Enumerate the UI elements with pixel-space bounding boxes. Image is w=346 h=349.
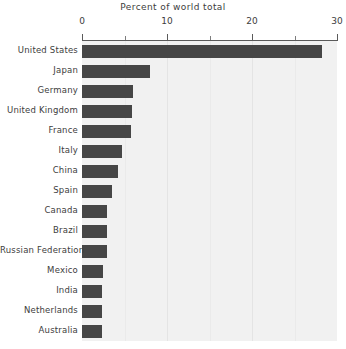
gridline [252, 41, 253, 341]
category-label: Russian Federation [0, 245, 78, 255]
category-label: Italy [0, 145, 78, 155]
bar [82, 325, 102, 338]
category-label: Germany [0, 85, 78, 95]
category-label: Japan [0, 65, 78, 75]
category-label: India [0, 285, 78, 295]
gridline [167, 41, 168, 341]
x-axis-tick [82, 34, 83, 40]
bar [82, 125, 131, 138]
category-label: Canada [0, 205, 78, 215]
bar [82, 65, 150, 78]
category-label: France [0, 125, 78, 135]
category-label: United States [0, 45, 78, 55]
bar [82, 285, 102, 298]
category-label: Mexico [0, 265, 78, 275]
bar [82, 265, 103, 278]
plot-area [82, 41, 337, 341]
bar [82, 185, 112, 198]
chart-title: Percent of world total [0, 2, 346, 12]
bar [82, 305, 102, 318]
category-label: United Kingdom [0, 105, 78, 115]
x-axis-tick-minor [210, 36, 211, 40]
x-axis-tick-minor [125, 36, 126, 40]
category-label: Netherlands [0, 305, 78, 315]
bar-chart: Percent of world total United StatesJapa… [0, 0, 346, 349]
gridline-minor [210, 41, 211, 341]
bar [82, 225, 107, 238]
x-axis-tick [337, 34, 338, 40]
category-label: Brazil [0, 225, 78, 235]
y-axis-category-labels: United StatesJapanGermanyUnited KingdomF… [0, 41, 78, 341]
x-axis-tick [252, 34, 253, 40]
x-axis-tick-label: 20 [246, 16, 257, 26]
x-axis-tick-label: 30 [331, 16, 342, 26]
bar [82, 205, 107, 218]
category-label: China [0, 165, 78, 175]
x-axis-tick-label: 10 [161, 16, 172, 26]
x-axis-tick-label: 0 [79, 16, 85, 26]
gridline-minor [295, 41, 296, 341]
bar [82, 145, 122, 158]
x-axis-tick [167, 34, 168, 40]
bar [82, 245, 107, 258]
bar [82, 45, 322, 58]
bar [82, 85, 133, 98]
x-axis-tick-minor [295, 36, 296, 40]
bar [82, 105, 132, 118]
category-label: Spain [0, 185, 78, 195]
category-label: Australia [0, 325, 78, 335]
bar [82, 165, 118, 178]
